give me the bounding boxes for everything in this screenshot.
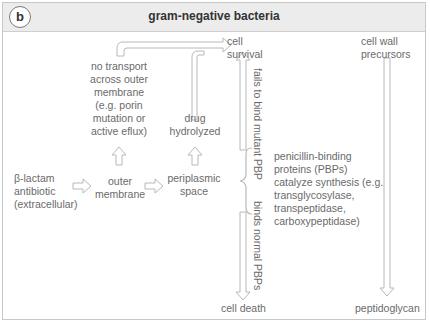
node-drug-line: hydrolyzed xyxy=(162,125,228,138)
node-cell-death: cell death xyxy=(221,302,266,315)
node-antibiotic-line: antibiotic xyxy=(14,185,78,198)
node-drug-line: drug xyxy=(162,112,228,125)
node-precursors-line: cell wall xyxy=(361,35,411,48)
arrow-notransport-to-survival xyxy=(117,38,231,56)
curly-brace xyxy=(240,148,252,214)
node-no-transport-line: no transport xyxy=(82,60,156,73)
arrow-brace-to-death xyxy=(236,212,250,300)
node-periplasmic-space: periplasmic space xyxy=(163,172,225,198)
node-outer-membrane: outer membrane xyxy=(92,175,148,201)
node-antibiotic: β-lactam antibiotic (extracellular) xyxy=(14,172,78,211)
node-survival-line: survival xyxy=(227,48,263,61)
node-survival-line: cell xyxy=(227,35,263,48)
node-no-transport-line: across outer xyxy=(82,73,156,86)
node-antibiotic-line: (extracellular) xyxy=(14,198,78,211)
node-no-transport-line: (e.g. porin xyxy=(82,99,156,112)
node-pbps-line: transglycosylase, xyxy=(274,189,383,202)
node-outer-membrane-line: membrane xyxy=(92,188,148,201)
node-cell-wall-precursors: cell wall precursors xyxy=(361,35,411,61)
node-no-transport-line: membrane xyxy=(82,86,156,99)
node-pbps-line: carboxypeptidase) xyxy=(274,215,383,228)
node-no-transport-line: mutation or xyxy=(82,112,156,125)
arrow-brace-to-survival xyxy=(236,52,250,150)
node-peptidoglycan: peptidoglycan xyxy=(355,302,420,315)
arrow-periplasmic-to-hydrolyzed xyxy=(188,147,202,165)
arrow-outer-to-notransport xyxy=(112,147,126,165)
edge-label-fails-to-bind: fails to bind mutant PBP xyxy=(252,68,264,180)
node-pbps-line: penicillin-binding xyxy=(274,150,383,163)
node-periplasmic-line: periplasmic xyxy=(163,172,225,185)
node-periplasmic-line: space xyxy=(163,185,225,198)
node-precursors-line: precursors xyxy=(361,48,411,61)
node-pbps-line: catalyze synthesis (e.g. xyxy=(274,176,383,189)
node-no-transport: no transport across outer membrane (e.g.… xyxy=(82,60,156,138)
edge-label-binds-normal: binds normal PBPs xyxy=(252,201,264,290)
node-outer-membrane-line: outer xyxy=(92,175,148,188)
node-drug-hydrolyzed: drug hydrolyzed xyxy=(162,112,228,138)
node-pbps-line: transpeptidase, xyxy=(274,202,383,215)
node-cell-survival: cell survival xyxy=(227,35,263,61)
node-pbps-line: proteins (PBPs) xyxy=(274,163,383,176)
arrow-hydrolyzed-to-survival xyxy=(192,51,204,120)
node-pbps: penicillin-binding proteins (PBPs) catal… xyxy=(274,150,383,228)
node-antibiotic-line: β-lactam xyxy=(14,172,78,185)
node-no-transport-line: active eflux) xyxy=(82,125,156,138)
